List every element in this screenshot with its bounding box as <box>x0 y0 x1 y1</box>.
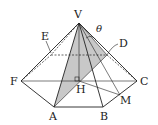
label-E: E <box>41 30 49 43</box>
label-theta: θ <box>96 23 102 34</box>
label-D-leader <box>107 44 118 55</box>
label-V: V <box>73 8 83 21</box>
pyramid-diagram: V θ E D F C H M A B <box>0 0 158 125</box>
label-D: D <box>119 37 128 50</box>
label-B: B <box>100 110 108 123</box>
label-A: A <box>48 110 58 123</box>
label-H: H <box>76 83 86 96</box>
pyramid-figure: V θ E D F C H M A B <box>0 0 158 125</box>
label-C: C <box>140 75 148 88</box>
label-F: F <box>10 75 18 88</box>
label-M: M <box>120 94 131 107</box>
